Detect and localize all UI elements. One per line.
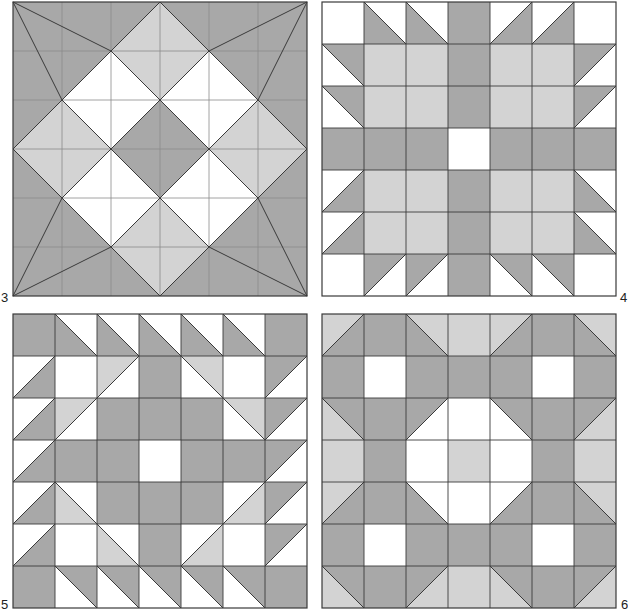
quilt-pattern-graphic	[13, 2, 307, 296]
quilt-pattern-graphic	[322, 314, 616, 608]
quilt-block-5	[13, 314, 307, 608]
block-number-4: 4	[620, 291, 627, 304]
block-number-5: 5	[1, 598, 8, 609]
quilt-block-6	[322, 314, 616, 608]
quilt-block-4	[322, 2, 616, 296]
quilt-pattern-graphic	[322, 2, 616, 296]
quilt-block-3	[13, 2, 307, 296]
block-number-6: 6	[621, 598, 628, 609]
quilt-pattern-graphic	[13, 314, 307, 608]
block-number-3: 3	[1, 291, 8, 304]
